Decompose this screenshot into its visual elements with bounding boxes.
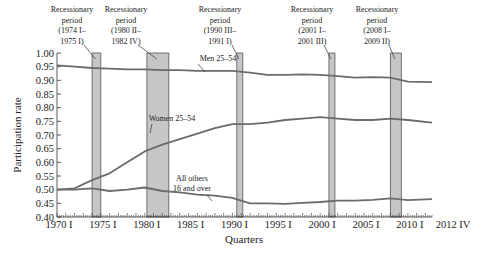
x-axis-title: Quarters: [225, 233, 263, 245]
recession-label: 2009 II): [364, 37, 390, 46]
recession-label: (1990 III–: [204, 26, 238, 35]
x-tick-label: 2010 I: [396, 219, 424, 230]
y-tick-label: 1.00: [36, 48, 54, 59]
y-tick-label: 0.85: [36, 89, 54, 100]
annotations: Recessionaryperiod(1974 I–1975 I)Recessi…: [51, 5, 399, 201]
recession-label: 1975 I): [60, 37, 84, 46]
recession-label: Recessionary: [105, 5, 148, 14]
recession-bar: [147, 53, 169, 217]
series-label: 16 and over: [173, 184, 211, 193]
recession-label: 1982 IV): [111, 37, 140, 46]
recession-bar: [329, 53, 335, 217]
recession-label: 2001 III): [298, 37, 327, 46]
recession-label: period: [116, 16, 136, 25]
y-tick-label: 0.70: [36, 130, 54, 141]
x-tick-label: 1970 I: [45, 219, 73, 230]
x-tick-label: 2012 IV: [436, 219, 471, 230]
x-tick-label: 1990 I: [221, 219, 249, 230]
recession-label: period: [302, 16, 322, 25]
labor-force-participation-chart: 1.000.950.900.850.800.750.700.650.600.55…: [0, 0, 485, 256]
recession-label: Recessionary: [356, 5, 399, 14]
recession-bar: [92, 53, 101, 217]
all-others-16-over-line: [57, 188, 432, 204]
x-tick-label: 2005 I: [352, 219, 380, 230]
recession-leader-line: [324, 45, 331, 59]
series-label: Women 25–54: [149, 114, 196, 123]
x-tick-label: 1985 I: [177, 219, 205, 230]
women-25-54-line: [57, 117, 432, 190]
recession-label: Recessionary: [51, 5, 94, 14]
y-tick-label: 0.95: [36, 61, 54, 72]
men-25-54-line: [57, 65, 432, 82]
y-tick-label: 0.80: [36, 102, 54, 113]
x-tick-label: 1975 I: [89, 219, 117, 230]
y-tick-label: 0.55: [36, 171, 54, 182]
y-tick-label: 0.65: [36, 143, 54, 154]
recession-label: (1980 II–: [111, 26, 142, 35]
recession-label: period: [210, 16, 230, 25]
recession-bar: [237, 53, 243, 217]
y-tick-label: 0.45: [36, 198, 54, 209]
recession-label: (2001 I–: [298, 26, 326, 35]
recession-label: period: [367, 16, 387, 25]
y-tick-label: 0.50: [36, 184, 54, 195]
y-tick-label: 0.90: [36, 75, 54, 86]
series-label: All others: [176, 174, 208, 183]
series-label: Men 25–54: [200, 54, 237, 63]
x-tick-label: 1980 I: [133, 219, 161, 230]
recession-label: 1991 I): [208, 37, 232, 46]
recession-label: (1974 I–: [58, 26, 86, 35]
data-series: [57, 65, 432, 204]
recession-label: Recessionary: [291, 5, 334, 14]
recession-label: (2008 I–: [363, 26, 391, 35]
y-tick-label: 0.75: [36, 116, 54, 127]
recession-leader-line: [84, 45, 95, 59]
recession-label: period: [62, 16, 82, 25]
x-tick-label: 1995 I: [265, 219, 293, 230]
recession-label: Recessionary: [199, 5, 242, 14]
y-tick-label: 0.60: [36, 157, 54, 168]
x-tick-label: 2000 I: [309, 219, 337, 230]
y-axis-title: Participation rate: [11, 97, 23, 173]
